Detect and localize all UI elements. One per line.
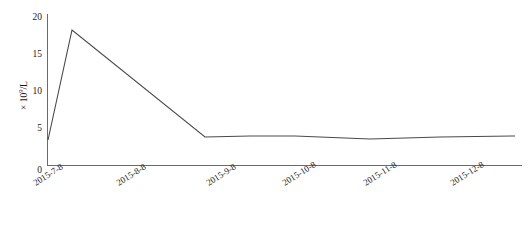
- plot-area: [0, 0, 532, 227]
- line-chart: × 109/L 20 15 10 5 0 2015-7-8 2015-8-8 2…: [0, 0, 532, 227]
- data-series-line: [48, 30, 515, 140]
